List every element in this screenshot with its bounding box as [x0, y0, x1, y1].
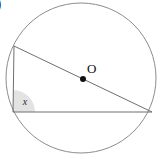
geometry-figure-svg: O x	[0, 0, 162, 159]
clipped-corner-glyph: )	[0, 0, 1, 12]
center-point-dot	[80, 76, 86, 82]
center-point-label: O	[87, 61, 96, 76]
angle-label-x: x	[22, 96, 28, 107]
geometry-figure-canvas: O x )	[0, 0, 162, 159]
